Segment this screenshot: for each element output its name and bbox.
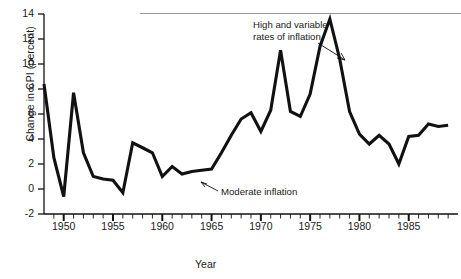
y-tick-marks [38, 14, 44, 214]
y-tick-label: 4 [8, 132, 34, 144]
y-tick-label: 10 [8, 57, 34, 69]
x-tick-label: 1985 [389, 220, 429, 232]
y-tick-label: 0 [8, 182, 34, 194]
annotation-high-line2: rates of inflation [253, 31, 328, 43]
arrow-moderate-inflation [201, 182, 218, 191]
y-tick-label: 14 [8, 7, 34, 19]
annotation-moderate-inflation: Moderate inflation [221, 186, 297, 198]
annotation-high-line1: High and variable [253, 19, 328, 31]
cpi-series-line [44, 19, 448, 197]
x-tick-label: 1960 [142, 220, 182, 232]
y-tick-label: 8 [8, 82, 34, 94]
y-tick-label: 12 [8, 32, 34, 44]
annotation-high-inflation: High and variable rates of inflation [253, 19, 328, 42]
arrow-high-inflation [318, 43, 345, 60]
y-tick-label: 2 [8, 157, 34, 169]
x-tick-label: 1980 [339, 220, 379, 232]
y-tick-label: -2 [8, 207, 34, 219]
annotation-moderate-line1: Moderate inflation [221, 186, 297, 198]
chart-figure: Change in CPI (percent) Year -2024681012… [0, 0, 461, 279]
x-tick-label: 1950 [44, 220, 84, 232]
y-tick-label: 6 [8, 107, 34, 119]
x-axis-title: Year [195, 258, 216, 270]
chart-canvas [0, 0, 461, 279]
x-tick-label: 1975 [290, 220, 330, 232]
x-tick-label: 1970 [241, 220, 281, 232]
x-tick-label: 1965 [192, 220, 232, 232]
x-tick-label: 1955 [93, 220, 133, 232]
